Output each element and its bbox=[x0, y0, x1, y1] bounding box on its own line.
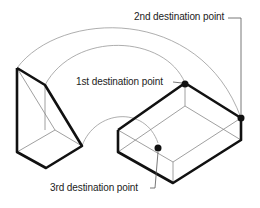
third-destination-point bbox=[155, 145, 162, 152]
box-outline bbox=[118, 83, 241, 183]
box-hidden-edges bbox=[118, 83, 241, 183]
arc-outer bbox=[17, 28, 241, 118]
first-destination-point bbox=[182, 81, 189, 88]
leader-second bbox=[228, 18, 241, 114]
wedge-outline bbox=[17, 68, 82, 168]
second-destination-point bbox=[238, 115, 245, 122]
diagram-canvas bbox=[0, 0, 260, 208]
leader-first bbox=[173, 82, 182, 83]
leader-lines bbox=[150, 18, 241, 188]
wedge-hidden-edges bbox=[17, 68, 82, 152]
label-third-destination-point: 3rd destination point bbox=[50, 182, 138, 193]
label-first-destination-point: 1st destination point bbox=[76, 76, 163, 87]
label-second-destination-point: 2nd destination point bbox=[134, 11, 224, 22]
